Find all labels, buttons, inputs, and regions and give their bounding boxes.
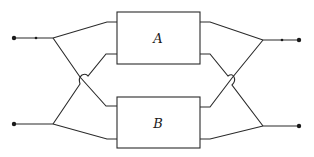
- terminal-dot-icon: [297, 124, 301, 128]
- terminal-dot-icon: [12, 122, 16, 126]
- output-bottom-terminal: [263, 124, 301, 128]
- left-wiring: [53, 22, 117, 139]
- block-b: B: [117, 97, 200, 148]
- output-top-terminal: [263, 38, 301, 42]
- block-a-label: A: [152, 31, 162, 46]
- arrow-marker-icon: [281, 39, 284, 42]
- terminal-dot-icon: [297, 38, 301, 42]
- right-wiring: [200, 22, 263, 139]
- block-diagram: A B: [0, 0, 314, 157]
- block-a: A: [117, 12, 200, 64]
- block-b-label: B: [152, 116, 163, 131]
- arrow-marker-icon: [35, 37, 38, 40]
- input-top-terminal: [12, 36, 53, 40]
- input-bottom-terminal: [12, 122, 53, 126]
- terminal-dot-icon: [12, 36, 16, 40]
